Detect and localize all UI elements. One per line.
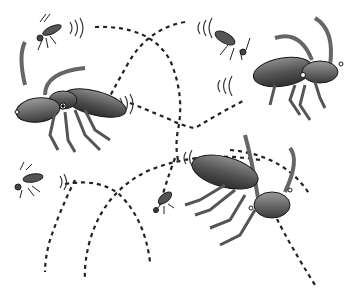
mosquito-left — [15, 162, 44, 198]
insect-illustration — [0, 0, 355, 292]
flight-path — [65, 182, 150, 262]
mosquito-top-left — [37, 14, 63, 50]
large-insect-top-right — [251, 18, 343, 120]
mosquito-top-center — [213, 28, 250, 60]
large-insect-top-left — [15, 42, 129, 152]
flight-path — [130, 100, 245, 128]
flight-path — [277, 219, 315, 285]
flight-path — [45, 180, 75, 272]
mosquito-center — [154, 190, 175, 214]
